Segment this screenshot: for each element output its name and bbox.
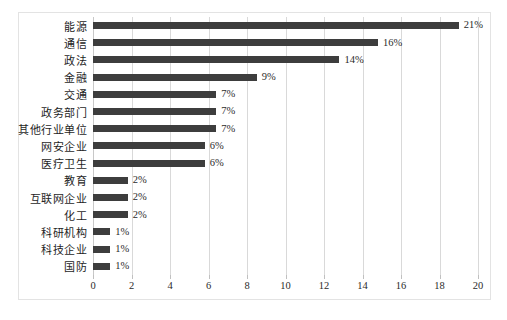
plot-area: 21%16%14%9%7%7%7%6%6%2%2%2%1%1%1% [93, 17, 478, 275]
bar-value-label: 2% [133, 210, 147, 221]
x-tick-label: 0 [90, 281, 95, 292]
bar-row: 16% [93, 34, 478, 51]
bar-value-label: 7% [221, 106, 235, 117]
category-label: 能源 [64, 17, 87, 34]
bar-row: 14% [93, 51, 478, 68]
bar-value-label: 2% [133, 192, 147, 203]
category-label: 网安企业 [41, 137, 87, 154]
bar-row: 1% [93, 241, 478, 258]
bar-row: 2% [93, 172, 478, 189]
bar-row: 6% [93, 155, 478, 172]
bar [93, 263, 110, 270]
bar-row: 1% [93, 223, 478, 240]
bar-row: 7% [93, 103, 478, 120]
bar-row: 2% [93, 189, 478, 206]
bar-row: 2% [93, 206, 478, 223]
bar-value-label: 1% [115, 227, 129, 238]
x-tick-mark [324, 275, 325, 279]
x-tick-mark [286, 275, 287, 279]
category-label: 政务部门 [41, 103, 87, 120]
category-label: 科研机构 [41, 223, 87, 240]
category-label: 其他行业单位 [18, 120, 87, 137]
category-label: 教育 [64, 172, 87, 189]
bar-value-label: 7% [221, 124, 235, 135]
x-tick-label: 14 [357, 281, 368, 292]
x-tick-mark [363, 275, 364, 279]
x-tick-mark [170, 275, 171, 279]
bar-value-label: 9% [262, 72, 276, 83]
bar-row: 6% [93, 137, 478, 154]
category-label: 通信 [64, 34, 87, 51]
bar [93, 177, 128, 184]
x-tick-mark [478, 275, 479, 279]
bar-value-label: 7% [221, 89, 235, 100]
x-tick-label: 6 [206, 281, 211, 292]
bar [93, 56, 339, 63]
x-tick-label: 8 [244, 281, 249, 292]
bar-row: 9% [93, 69, 478, 86]
x-tick-mark [247, 275, 248, 279]
bar-value-label: 6% [210, 141, 224, 152]
bar-row: 21% [93, 17, 478, 34]
bar [93, 246, 110, 253]
category-label: 互联网企业 [30, 189, 88, 206]
category-label: 国防 [64, 258, 87, 275]
bar-row: 7% [93, 120, 478, 137]
bar [93, 211, 128, 218]
x-tick-label: 10 [280, 281, 291, 292]
bar [93, 142, 205, 149]
bar-row: 1% [93, 258, 478, 275]
bar-value-label: 6% [210, 158, 224, 169]
gridline-20 [478, 17, 479, 275]
chart-plot-frame: 能源通信政法金融交通政务部门其他行业单位网安企业医疗卫生教育互联网企业化工科研机… [18, 12, 491, 300]
bar [93, 108, 216, 115]
x-tick-mark [401, 275, 402, 279]
bar [93, 74, 257, 81]
x-tick-mark [440, 275, 441, 279]
bar-value-label: 14% [344, 55, 363, 66]
x-tick-label: 4 [167, 281, 172, 292]
bar-value-label: 1% [115, 244, 129, 255]
bar-chart-figure: 能源通信政法金融交通政务部门其他行业单位网安企业医疗卫生教育互联网企业化工科研机… [0, 0, 507, 320]
bar [93, 194, 128, 201]
category-label: 科技企业 [41, 241, 87, 258]
bar [93, 91, 216, 98]
bar-series: 21%16%14%9%7%7%7%6%6%2%2%2%1%1%1% [93, 17, 478, 275]
x-tick-mark [132, 275, 133, 279]
category-label: 金融 [64, 69, 87, 86]
x-tick-label: 18 [434, 281, 445, 292]
bar [93, 125, 216, 132]
bar-value-label: 1% [115, 261, 129, 272]
bar [93, 228, 110, 235]
bar-value-label: 2% [133, 175, 147, 186]
category-axis-labels: 能源通信政法金融交通政务部门其他行业单位网安企业医疗卫生教育互联网企业化工科研机… [19, 17, 91, 275]
x-tick-label: 16 [396, 281, 407, 292]
x-tick-mark [93, 275, 94, 279]
category-label: 交通 [64, 86, 87, 103]
x-axis: 02468101214161820 [93, 275, 478, 299]
category-label: 化工 [64, 206, 87, 223]
bar [93, 22, 459, 29]
bar-row: 7% [93, 86, 478, 103]
bar-value-label: 16% [383, 38, 402, 49]
bar [93, 160, 205, 167]
x-tick-label: 20 [473, 281, 484, 292]
x-tick-label: 12 [319, 281, 330, 292]
x-tick-label: 2 [129, 281, 134, 292]
category-label: 医疗卫生 [41, 155, 87, 172]
bar-value-label: 21% [464, 20, 483, 31]
category-label: 政法 [64, 51, 87, 68]
bar [93, 39, 378, 46]
x-tick-mark [209, 275, 210, 279]
